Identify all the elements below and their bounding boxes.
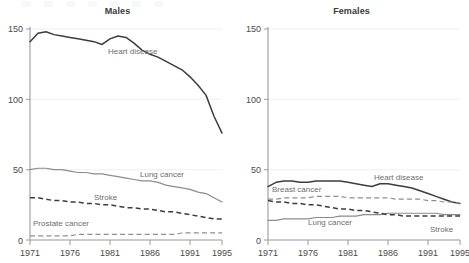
series-label-stroke: Stroke xyxy=(430,225,454,234)
series-line-lung-cancer xyxy=(30,168,222,202)
x-tick-1981: 1981 xyxy=(100,248,120,258)
y-tick-50: 50 xyxy=(13,165,23,175)
x-tick-1995: 1995 xyxy=(450,248,469,258)
series-curves-males xyxy=(30,32,222,236)
x-tick-1976: 1976 xyxy=(298,248,318,258)
series-line-breast-cancer xyxy=(268,196,460,203)
x-tick-1971: 1971 xyxy=(20,248,40,258)
plot-area-females: 150 100 50 0 1971 1976 1981 1986 1991 19… xyxy=(234,0,469,263)
axes-males xyxy=(26,27,222,245)
x-tick-labels-males: 1971 1976 1981 1986 1991 1995 xyxy=(20,248,232,258)
x-tick-1976: 1976 xyxy=(60,248,80,258)
series-label-prostate-cancer: Prostate cancer xyxy=(33,219,89,228)
y-tick-0: 0 xyxy=(256,236,261,246)
series-line-prostate-cancer xyxy=(30,233,222,236)
x-tick-1971: 1971 xyxy=(258,248,278,258)
x-tick-1995: 1995 xyxy=(212,248,232,258)
y-tick-0: 0 xyxy=(18,236,23,246)
plot-area-males: 150 100 50 0 1971 1976 1981 1986 1991 19… xyxy=(0,0,235,263)
x-tick-1991: 1991 xyxy=(418,248,438,258)
series-label-heart-disease: Heart disease xyxy=(108,47,158,56)
x-tick-labels-females: 1971 1976 1981 1986 1991 1995 xyxy=(258,248,469,258)
series-label-heart-disease: Heart disease xyxy=(374,173,424,182)
y-tick-100: 100 xyxy=(246,95,261,105)
x-tick-1981: 1981 xyxy=(338,248,358,258)
y-tick-150: 150 xyxy=(8,24,23,34)
series-label-breast-cancer: Breast cancer xyxy=(272,185,322,194)
x-tick-1991: 1991 xyxy=(180,248,200,258)
y-tick-100: 100 xyxy=(8,95,23,105)
axes-females xyxy=(264,27,460,245)
y-tick-150: 150 xyxy=(246,24,261,34)
series-label-lung-cancer: Lung cancer xyxy=(308,218,352,227)
series-label-stroke: Stroke xyxy=(94,193,118,202)
x-tick-1986: 1986 xyxy=(378,248,398,258)
gridlines-females xyxy=(268,29,460,170)
y-tick-50: 50 xyxy=(251,165,261,175)
x-tick-1986: 1986 xyxy=(140,248,160,258)
y-tick-labels-females: 150 100 50 0 xyxy=(246,24,261,246)
chart-panel-females: Females 150 100 50 0 1971 xyxy=(234,0,469,263)
series-label-lung-cancer: Lung cancer xyxy=(140,170,184,179)
chart-panel-males: Males 150 100 50 0 1971 xyxy=(0,0,235,263)
series-line-stroke xyxy=(30,198,222,219)
y-tick-labels-males: 150 100 50 0 xyxy=(8,24,23,246)
